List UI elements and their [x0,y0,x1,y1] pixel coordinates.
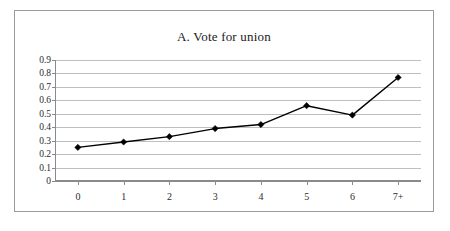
x-axis-tick-label: 0 [75,191,80,202]
line-series [55,60,421,181]
x-axis-tick-mark [307,181,308,185]
x-axis-tick-mark [169,181,170,185]
data-point-marker [75,144,81,150]
series-line [78,77,398,147]
y-axis-tick-label: 0.4 [39,122,51,132]
x-axis-tick-label: 7+ [393,191,404,202]
y-axis-tick-mark [52,181,55,182]
x-axis-tick-label: 5 [304,191,309,202]
y-axis-tick-label: 0.1 [39,163,51,173]
x-axis-tick-mark [398,181,399,185]
x-axis-tick-mark [215,181,216,185]
plot-wrapper: 0.90.80.70.60.50.40.30.20.10 01234567+ [15,11,433,211]
x-axis-tick-mark [78,181,79,185]
x-axis-tick-label: 1 [121,191,126,202]
x-axis-tick-label: 6 [350,191,355,202]
y-axis-tick-label: 0.7 [39,82,51,92]
y-axis-tick-label: 0.2 [39,149,51,159]
y-axis-tick-label: 0.9 [39,55,51,65]
y-axis-tick-label: 0.6 [39,95,51,105]
x-axis-tick-mark [261,181,262,185]
x-axis-tick-label: 2 [167,191,172,202]
y-axis-tick-label: 0.3 [39,136,51,146]
x-axis-tick-label: 3 [213,191,218,202]
data-point-marker [121,139,127,145]
y-axis-tick-label: 0.5 [39,109,51,119]
y-axis-tick-label: 0.8 [39,68,51,78]
chart-figure: A. Vote for union 0.90.80.70.60.50.40.30… [14,10,434,212]
plot-area: 0.90.80.70.60.50.40.30.20.10 01234567+ [55,60,421,181]
gridline [55,181,421,182]
x-axis-tick-mark [124,181,125,185]
data-point-marker [212,125,218,131]
data-point-marker [258,121,264,127]
data-point-marker [304,103,310,109]
data-point-marker [166,134,172,140]
x-axis-tick-label: 4 [258,191,263,202]
y-axis-tick-label: 0 [46,176,51,186]
x-axis-tick-mark [352,181,353,185]
